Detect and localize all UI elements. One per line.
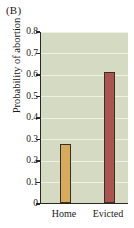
gridline [41,161,128,162]
bar-evicted [104,72,115,203]
y-tick-label: 0.7 [10,49,38,59]
gridline [41,139,128,140]
gridline [41,32,128,33]
x-axis-label-evicted: Evicted [78,208,134,220]
gridline [41,118,128,119]
gridline [41,53,128,54]
figure-panel-b: (B) Probability of abortion 00.10.20.30.… [0,0,134,228]
y-tick-label: 0.8 [10,27,38,37]
y-tick-label: 0.1 [10,178,38,188]
bar-home [60,144,71,203]
y-tick-label: 0.5 [10,92,38,102]
y-tick-label: 0.3 [10,135,38,145]
gridline [41,182,128,183]
y-tick-label: 0.4 [10,113,38,123]
y-tick-label: 0.6 [10,70,38,80]
y-tick-label: 0.2 [10,156,38,166]
plot-area [40,32,128,204]
gridline [41,75,128,76]
gridline [41,96,128,97]
